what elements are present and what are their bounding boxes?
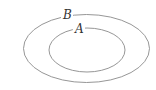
set-a-ellipse bbox=[49, 28, 125, 72]
euler-diagram: B A bbox=[0, 0, 156, 90]
set-a-label: A bbox=[74, 22, 84, 36]
set-b-label: B bbox=[62, 8, 72, 22]
